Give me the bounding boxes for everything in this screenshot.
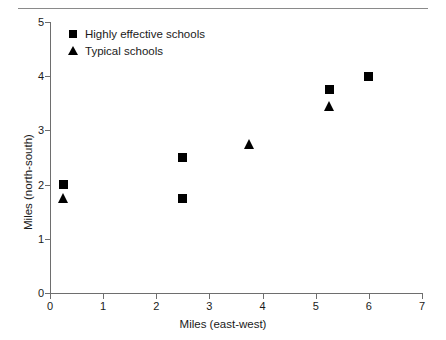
legend-item: Highly effective schools <box>66 25 205 42</box>
data-point-square <box>364 72 373 81</box>
data-point-triangle <box>244 139 254 149</box>
x-tick-mark <box>316 294 317 299</box>
data-point-square <box>178 153 187 162</box>
y-tick-label: 1 <box>30 234 44 245</box>
x-tick-mark <box>263 294 264 299</box>
x-axis-title: Miles (east-west) <box>0 318 446 330</box>
y-tick-label: 5 <box>30 17 44 28</box>
x-tick-mark <box>156 294 157 299</box>
x-tick-label: 7 <box>412 301 432 312</box>
legend-item-label: Highly effective schools <box>85 28 205 40</box>
data-point-square <box>325 85 334 94</box>
data-point-triangle <box>324 101 334 111</box>
data-point-square <box>59 180 68 189</box>
scatter-chart-figure: 012345 01234567 Miles (east-west) Miles … <box>0 0 446 340</box>
chart-legend: Highly effective schoolsTypical schools <box>66 25 205 59</box>
y-tick-mark <box>45 76 50 77</box>
y-tick-mark <box>45 185 50 186</box>
x-tick-label: 1 <box>93 301 113 312</box>
data-point-square <box>178 194 187 203</box>
y-tick-mark <box>45 130 50 131</box>
legend-square-icon <box>66 30 80 38</box>
y-axis-line <box>50 22 51 294</box>
y-axis-title: Miles (north-south) <box>22 134 34 230</box>
x-tick-label: 0 <box>40 301 60 312</box>
legend-item-label: Typical schools <box>85 45 163 57</box>
legend-triangle-icon <box>66 46 80 55</box>
x-tick-mark <box>50 294 51 299</box>
legend-item: Typical schools <box>66 42 205 59</box>
top-divider-rule <box>18 8 428 9</box>
x-tick-label: 3 <box>199 301 219 312</box>
y-tick-label: 0 <box>30 288 44 299</box>
x-tick-label: 4 <box>253 301 273 312</box>
x-tick-label: 2 <box>146 301 166 312</box>
x-axis-line <box>50 293 423 294</box>
y-tick-mark <box>45 22 50 23</box>
data-point-triangle <box>58 193 68 203</box>
x-tick-mark <box>209 294 210 299</box>
x-tick-mark <box>422 294 423 299</box>
y-tick-mark <box>45 239 50 240</box>
y-tick-label: 4 <box>30 71 44 82</box>
x-tick-mark <box>369 294 370 299</box>
x-tick-mark <box>103 294 104 299</box>
x-tick-label: 5 <box>306 301 326 312</box>
x-tick-label: 6 <box>359 301 379 312</box>
